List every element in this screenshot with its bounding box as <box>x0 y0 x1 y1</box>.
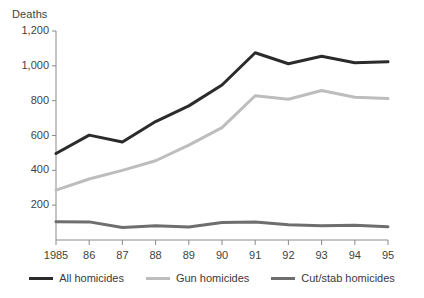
series-line-gun-homicides <box>56 91 388 191</box>
x-tick-label: 94 <box>349 249 361 261</box>
series-line-cut-stab-homicides <box>56 222 388 228</box>
legend-swatch-icon <box>271 277 295 280</box>
y-tick-label: 600 <box>7 129 49 141</box>
x-tick-label: 90 <box>216 249 228 261</box>
chart-figure: Deaths 2004006008001,0001,200 1985868788… <box>0 0 424 298</box>
x-tick-label: 86 <box>83 249 95 261</box>
legend-item[interactable]: Cut/stab homicides <box>271 272 395 284</box>
x-tick-label: 1985 <box>44 249 68 261</box>
legend-swatch-icon <box>146 277 170 280</box>
y-tick-label: 1,000 <box>7 59 49 71</box>
y-tick-label: 200 <box>7 198 49 210</box>
y-tick-label: 1,200 <box>7 24 49 36</box>
legend-swatch-icon <box>29 277 53 280</box>
x-tick-label: 87 <box>116 249 128 261</box>
series-line-all-homicides <box>56 53 388 154</box>
legend-label: Gun homicides <box>176 272 249 284</box>
y-tick-label: 800 <box>7 94 49 106</box>
y-tick-label: 400 <box>7 163 49 175</box>
legend-item[interactable]: Gun homicides <box>146 272 249 284</box>
legend-item[interactable]: All homicides <box>29 272 124 284</box>
x-tick-label: 91 <box>249 249 261 261</box>
chart-legend: All homicidesGun homicidesCut/stab homic… <box>0 272 424 284</box>
x-tick-label: 95 <box>382 249 394 261</box>
legend-label: All homicides <box>59 272 124 284</box>
x-tick-label: 93 <box>315 249 327 261</box>
legend-label: Cut/stab homicides <box>301 272 395 284</box>
x-tick-label: 88 <box>149 249 161 261</box>
x-tick-label: 89 <box>183 249 195 261</box>
x-tick-label: 92 <box>282 249 294 261</box>
